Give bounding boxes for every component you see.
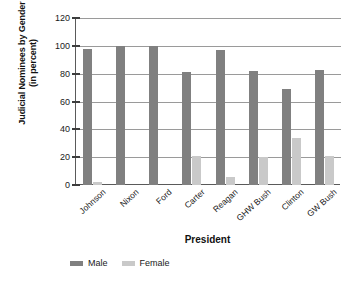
legend-label: Male — [88, 258, 108, 268]
bar-group — [149, 18, 168, 185]
bar-group — [282, 18, 301, 185]
legend-item-female[interactable]: Female — [122, 258, 170, 268]
legend-swatch-icon — [70, 261, 83, 266]
bar-female-clinton — [292, 138, 301, 185]
legend-item-male[interactable]: Male — [70, 258, 108, 268]
bar-female-carter — [192, 156, 201, 185]
x-axis-tick-label: Ford — [154, 187, 174, 206]
y-axis-tick-label: 100 — [55, 41, 70, 51]
x-axis-tick-label: Carter — [182, 187, 206, 210]
x-axis-tick-label: Johnson — [77, 187, 108, 216]
y-axis-tick-label: 40 — [60, 124, 70, 134]
x-axis-tick-labels: JohnsonNixonFordCarterReaganGHW BushClin… — [75, 187, 340, 232]
bar-male-nixon — [116, 46, 125, 185]
bar-group — [249, 18, 268, 185]
bar-female-reagan — [226, 177, 235, 185]
x-axis-title: President — [75, 234, 340, 245]
bar-male-ghw-bush — [249, 71, 258, 185]
plot-area: 020406080100120 — [75, 18, 340, 185]
bar-group — [83, 18, 102, 185]
bar-female-johnson — [93, 182, 102, 185]
y-axis-title: Judicial Nominees by Gender (in percent) — [17, 0, 39, 153]
legend-swatch-icon — [122, 261, 135, 266]
y-axis-tick-label: 60 — [60, 97, 70, 107]
y-axis-tick-label: 80 — [60, 69, 70, 79]
x-axis-tick-label: Nixon — [118, 187, 141, 209]
bar-male-carter — [182, 72, 191, 185]
bar-group — [216, 18, 235, 185]
bar-female-ghw-bush — [259, 157, 268, 185]
legend-label: Female — [140, 258, 170, 268]
bar-male-reagan — [216, 50, 225, 185]
bar-male-gw-bush — [315, 70, 324, 186]
bar-male-ford — [149, 46, 158, 185]
bar-chart-figure: Judicial Nominees by Gender (in percent)… — [0, 0, 359, 281]
x-axis-tick-label: Reagan — [211, 187, 240, 214]
y-axis-title-line-1: Judicial Nominees by Gender — [17, 1, 27, 124]
chart-legend: MaleFemale — [70, 258, 170, 268]
bar-female-gw-bush — [325, 156, 334, 185]
x-axis-tick-label: GW Bush — [305, 187, 339, 219]
x-axis-tick-label: GHW Bush — [235, 187, 273, 223]
bar-group — [315, 18, 334, 185]
bar-group — [116, 18, 135, 185]
x-axis-tick-label: Clinton — [280, 187, 306, 212]
bar-male-clinton — [282, 89, 291, 185]
y-axis-tick-label: 20 — [60, 152, 70, 162]
bar-male-johnson — [83, 49, 92, 185]
y-axis-tick-label: 0 — [65, 180, 70, 190]
bars-layer — [76, 18, 341, 185]
bar-group — [182, 18, 201, 185]
y-axis-title-line-2: (in percent) — [28, 0, 39, 153]
y-axis-tick-label: 120 — [55, 13, 70, 23]
